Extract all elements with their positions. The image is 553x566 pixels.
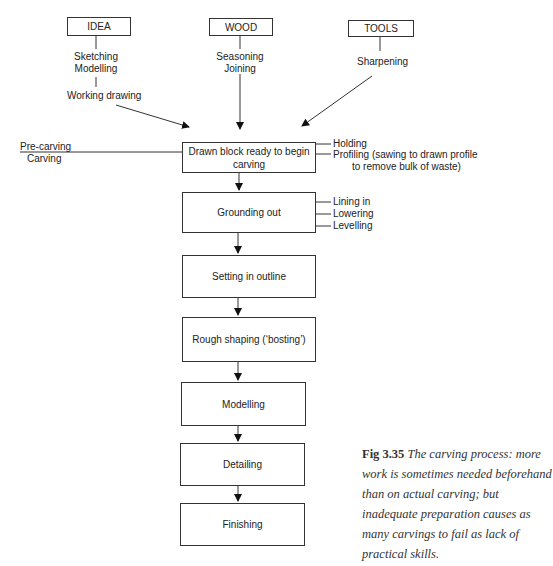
caption-text: The carving process: more work is someti… [362,447,552,561]
wood-box: WOOD [209,18,273,36]
idea-working-drawing: Working drawing [67,90,141,102]
wood-steps: Seasoning Joining [210,51,270,75]
figure-number: Fig 3.35 [362,447,404,461]
idea-step-sketching: Sketching [66,51,126,63]
tools-box: TOOLS [348,20,414,37]
stage-modelling: Modelling [181,382,306,426]
stage-label: Detailing [223,458,262,471]
note-profiling: Profiling (sawing to drawn profile [333,149,478,161]
stage-detailing: Detailing [180,443,305,486]
wood-label: WOOD [225,21,257,34]
note-profiling-cont: to remove bulk of waste) [352,161,461,173]
stage-finishing: Finishing [180,503,305,546]
tools-step-sharpening: Sharpening [357,56,408,68]
stage-label: Finishing [222,518,262,531]
stage-drawn-block: Drawn block ready to begin carving [182,142,316,173]
figure-caption: Fig 3.35 The carving process: more work … [362,444,552,564]
stage-rough-shaping: Rough shaping (‘bosting’) [182,317,316,362]
idea-steps: Sketching Modelling [66,51,126,75]
tools-label: TOOLS [364,22,398,35]
stage-setting-in-outline: Setting in outline [182,255,316,298]
stage-label: Rough shaping (‘bosting’) [192,333,305,346]
phase-carving: Carving [27,153,61,165]
stage-label: Modelling [222,398,265,411]
wood-step-joining: Joining [210,63,270,75]
idea-step-modelling: Modelling [66,63,126,75]
stage-label: Setting in outline [212,270,286,283]
phase-pre-carving: Pre-carving [20,141,71,153]
note-levelling: Levelling [333,220,372,232]
idea-label: IDEA [87,20,110,33]
stage-label: Drawn block ready to begin carving [183,145,315,171]
note-lowering: Lowering [333,208,374,220]
note-lining-in: Lining in [333,196,370,208]
idea-box: IDEA [67,17,131,36]
stage-grounding-out: Grounding out [182,192,316,233]
wood-step-seasoning: Seasoning [210,51,270,63]
stage-label: Grounding out [217,206,280,219]
